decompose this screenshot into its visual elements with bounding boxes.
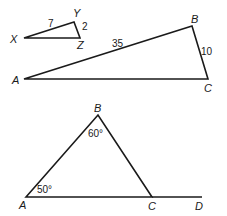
vertex-label-c: C <box>204 82 212 94</box>
vertex-label-b: B <box>191 13 198 25</box>
diagram-svg: X Y Z 7 2 A B C 35 10 B A C D 60° 50° <box>0 0 227 216</box>
side-label-ab: 35 <box>112 38 124 49</box>
geometry-figure: X Y Z 7 2 A B C 35 10 B A C D 60° 50° <box>0 0 227 216</box>
triangle-abc-large <box>24 26 208 79</box>
vertex-label-c2: C <box>148 200 156 212</box>
side-label-bc: 10 <box>201 46 213 57</box>
vertex-label-d: D <box>195 200 203 212</box>
vertex-label-x: X <box>9 33 18 45</box>
angle-label-a: 50° <box>37 184 52 195</box>
vertex-label-a2: A <box>18 199 26 211</box>
angle-label-b: 60° <box>88 128 103 139</box>
side-label-xy: 7 <box>48 18 54 29</box>
vertex-label-y: Y <box>73 7 81 19</box>
vertex-label-b2: B <box>94 102 101 114</box>
vertex-label-a: A <box>11 74 19 86</box>
side-label-yz: 2 <box>82 21 88 32</box>
vertex-label-z: Z <box>76 39 85 51</box>
